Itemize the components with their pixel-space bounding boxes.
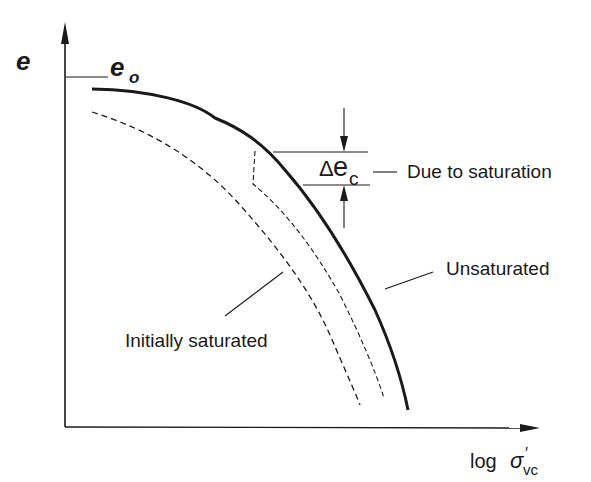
diagram-graphics [0,0,591,482]
x-axis [65,424,540,432]
x-axis-label-sigma: σ [510,448,523,474]
delta-ec-e: e [333,152,348,183]
unsaturated-label: Unsaturated [446,258,550,280]
leader-initially-saturated [225,272,283,316]
arrow-down-icon [340,136,348,152]
x-axis-label-subscript: vc [523,461,538,478]
e0-label: e [110,52,124,83]
y-axis-arrow-icon [61,22,69,44]
y-axis-label: e [16,46,30,77]
x-axis-arrow-icon [520,424,540,432]
due-to-saturation-label: Due to saturation [407,161,552,183]
x-axis-label-log: log [470,450,497,473]
initially-saturated-label: Initially saturated [125,330,268,352]
leader-unsaturated [385,272,433,289]
delta-ec-subscript: c [349,168,359,190]
arrow-up-icon [340,185,348,201]
collapse-curve [253,151,384,398]
y-axis [61,22,69,427]
unsaturated-curve [92,89,408,410]
delta-ec-symbol: Δ [319,156,334,182]
e0-main: e [110,52,124,82]
e0-subscript: o [129,68,139,88]
e-log-stress-diagram: e e o Δ e c Due to saturation Unsaturate… [0,0,591,482]
